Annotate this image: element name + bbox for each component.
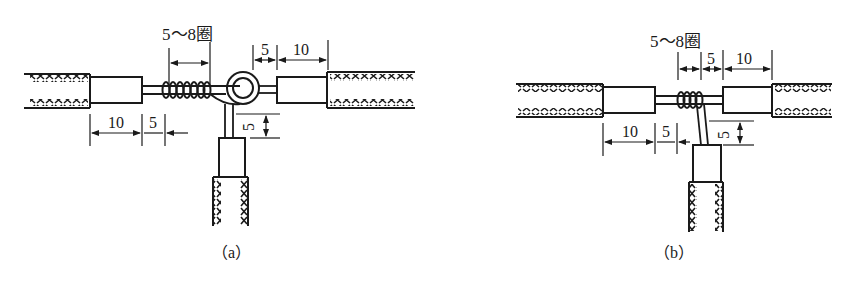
right-cable-shield: [772, 84, 832, 117]
dim-bottom-5-a: 5: [149, 114, 157, 131]
panel-b: [516, 50, 832, 232]
left-cable-shield: [516, 84, 603, 117]
coil-wrap: [678, 92, 703, 108]
left-cable-shield: [24, 74, 90, 108]
turns-label-a: 5～8圈: [162, 25, 213, 44]
knot-loop: [210, 72, 259, 104]
dim-bottom-10-a: 10: [108, 114, 124, 131]
dim-top-10-b: 10: [736, 50, 752, 67]
dim-bottom-10-b: 10: [622, 123, 638, 140]
right-cable-shield: [327, 72, 415, 108]
dim-top-5-a: 5: [261, 41, 269, 58]
branch-insulation: [219, 138, 245, 177]
dim-bottom-5-b: 5: [662, 123, 670, 140]
caption-b: （b）: [654, 244, 694, 261]
left-insulation: [603, 87, 655, 113]
dim-top-5-b: 5: [707, 50, 715, 67]
branch-cable-shield: [213, 177, 248, 226]
right-insulation: [277, 77, 327, 103]
branch-insulation: [693, 145, 721, 182]
coil-wrap: [163, 82, 211, 98]
caption-a: （a）: [212, 244, 251, 261]
dim-top-10-a: 10: [293, 41, 309, 58]
right-insulation: [723, 87, 772, 113]
dim-side-5-b: 5: [715, 131, 732, 139]
wire-t-junction-diagram: 5～8圈 5 10 10 5 5 （a）: [0, 0, 855, 283]
turns-label-b: 5～8圈: [650, 32, 701, 51]
panel-a: [24, 40, 415, 226]
dim-side-5-a: 5: [240, 123, 257, 131]
left-insulation: [90, 77, 142, 103]
branch-cable-shield: [689, 182, 723, 232]
